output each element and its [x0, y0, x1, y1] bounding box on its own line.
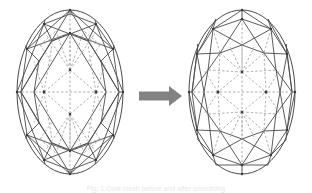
left-mesh-panel — [0, 0, 140, 185]
dashed-edge-group — [17, 10, 123, 174]
right-mesh-panel — [172, 0, 312, 185]
figure-caption: Fig. 1 Oval mesh before and after smooth… — [0, 184, 312, 193]
right-oval-mesh-svg — [172, 0, 312, 185]
dashed-edge-group — [189, 10, 295, 174]
figure-root: Fig. 1 Oval mesh before and after smooth… — [0, 0, 312, 193]
left-oval-mesh-svg — [0, 0, 140, 185]
